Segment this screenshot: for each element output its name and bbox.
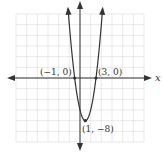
label-1-neg8: (1, −8) [82,124,114,134]
curve-right-arrow-icon [99,7,105,15]
point-1-neg8 [84,119,87,122]
point-neg1-0 [73,76,76,79]
y-axis-bottom-arrow-icon [77,143,83,151]
x-axis-right-arrow-icon [144,75,152,81]
parabola-curve [68,9,103,121]
curve-left-arrow-icon [66,7,72,15]
label-3-0: (3, 0) [98,67,122,77]
graph: x (−1, 0) (3, 0) (1, −8) [0,0,163,152]
y-axis-top-arrow-icon [77,1,83,9]
x-axis-left-arrow-icon [7,75,15,81]
label-neg1-0: (−1, 0) [40,67,72,77]
x-axis-label: x [155,72,161,83]
